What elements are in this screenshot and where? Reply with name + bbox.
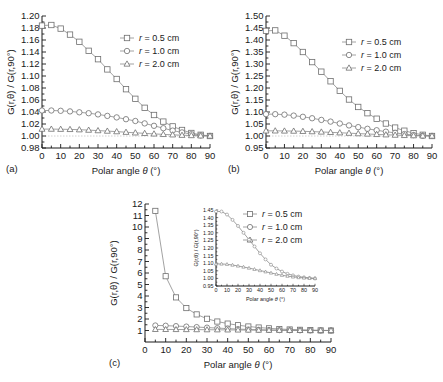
marker-circle [356,124,361,129]
marker-circle [86,111,91,116]
x-tick-label: 10 [224,287,230,293]
y-tick-label: 1.05 [203,268,214,274]
marker-square [39,23,44,28]
y-tick-label: 1.30 [245,58,264,69]
marker-square [142,105,147,110]
marker-circle [319,117,324,122]
marker-circle [95,112,100,117]
marker-circle [49,108,54,113]
data-curve [155,211,331,331]
x-tick-label: 90 [205,150,216,161]
x-tick-label: 50 [243,344,254,355]
marker-circle [124,48,129,53]
y-tick-label: 1.00 [203,275,214,281]
marker-circle [282,112,287,117]
x-tick-label: 30 [93,150,104,161]
x-tick-label: 60 [149,150,160,161]
y-tick-label: 1.35 [245,46,264,57]
legend-label: r = 0.5 cm [361,37,401,47]
x-tick-label: 0 [215,287,218,293]
legend: r = 0.5 cmr = 1.0 cmr = 2.0 cm [342,37,401,73]
y-tick-label: 1.20 [21,10,40,21]
y-tick-label: 1.10 [21,70,40,81]
legend: r = 0.5 cmr = 1.0 cmr = 2.0 cm [120,33,179,69]
marker-circle [275,267,278,270]
marker-circle [248,238,251,241]
marker-circle [346,52,351,57]
marker-triangle [281,128,287,133]
marker-square [319,69,324,74]
y-tick-label: 2 [137,313,142,324]
marker-circle [337,121,342,126]
x-tick-label: 60 [371,150,382,161]
legend-label: r = 2.0 cm [262,235,302,245]
y-tick-label: 0.98 [21,142,40,153]
y-tick-label: 1.06 [21,94,40,105]
y-tick-label: 1.12 [21,58,40,69]
y-tick-label: 1.40 [245,34,264,45]
marker-square [273,28,278,33]
y-tick-label: 1.05 [245,118,264,129]
marker-circle [215,210,218,213]
marker-square [383,121,388,126]
marker-square [58,26,63,31]
panel-a-plot: 0.981.001.021.041.061.081.101.121.141.16… [0,0,222,191]
marker-square [282,33,287,38]
y-tick-label: 9 [137,233,142,244]
marker-square [86,48,91,53]
panel-b-label: (b) [228,163,240,174]
panel-c: 1234567891011120102030405060708090Polar … [103,190,351,382]
y-axis-label: G(r,θ) / G(r,90°) [193,229,199,266]
y-tick-label: 1.15 [203,253,214,259]
marker-square [95,57,100,62]
legend-label: r = 2.0 cm [361,63,401,73]
marker-circle [273,111,278,116]
legend: r = 0.5 cmr = 1.0 cmr = 2.0 cm [243,209,302,245]
legend-label: r = 1.0 cm [361,50,401,60]
marker-circle [237,224,240,227]
marker-circle [220,210,223,213]
y-tick-label: 1.02 [21,118,40,129]
panel-b: 0.951.001.051.101.151.201.251.301.351.40… [222,0,443,191]
panel-b-plot: 0.951.001.051.101.151.201.251.301.351.40… [222,0,443,191]
y-tick-label: 1 [137,325,142,336]
y-tick-label: 12 [132,198,143,209]
marker-square [77,39,82,44]
x-tick-label: 50 [130,150,141,161]
marker-circle [309,116,314,121]
marker-square [114,76,119,81]
marker-square [247,211,252,216]
panel-c-label: (c) [109,357,120,368]
marker-circle [161,126,166,131]
legend-label: r = 0.5 cm [262,209,302,219]
x-tick-label: 70 [284,344,295,355]
marker-square [105,67,110,72]
marker-circle [291,113,296,118]
x-tick-label: 70 [390,150,401,161]
legend-label: r = 0.5 cm [139,33,179,43]
y-tick-label: 1.00 [21,130,40,141]
marker-circle [105,113,110,118]
y-axis-label: G(r,θ) / G(r,90°) [229,49,240,115]
y-tick-label: 1.30 [203,230,214,236]
y-axis-label: G(r,θ) / G(r,90°) [5,49,16,115]
legend-label: r = 1.0 cm [139,46,179,56]
x-tick-label: 60 [264,344,275,355]
marker-square [309,59,314,64]
x-tick-label: 10 [160,344,171,355]
x-tick-label: 80 [305,344,316,355]
legend-label: r = 2.0 cm [139,59,179,69]
marker-circle [77,110,82,115]
panel-a-label: (a) [6,163,18,174]
y-tick-label: 1.20 [203,245,214,251]
marker-circle [253,245,256,248]
marker-circle [58,108,63,113]
marker-circle [133,118,138,123]
marker-circle [270,263,273,266]
marker-square [263,28,268,33]
x-tick-label: 0 [39,150,44,161]
marker-square [67,32,72,37]
x-tick-label: 40 [257,287,263,293]
x-tick-label: 70 [290,287,296,293]
marker-circle [247,224,252,229]
